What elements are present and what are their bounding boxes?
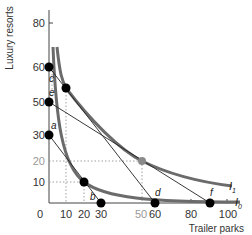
y-tick-label-80: 80 bbox=[33, 17, 45, 29]
tangency-point-i0-ef bbox=[62, 84, 71, 93]
label-a: a bbox=[51, 120, 57, 131]
label-e: e bbox=[49, 87, 55, 98]
point-b bbox=[97, 199, 106, 208]
y-tick-label-10: 10 bbox=[33, 176, 45, 188]
indifference-chart: c e a b d f I1 I0 80 60 50 30 20 10 0 10… bbox=[0, 0, 252, 235]
label-f: f bbox=[210, 187, 214, 198]
x-tick-label-0: 0 bbox=[37, 208, 43, 220]
tangency-point-i1-cd bbox=[138, 157, 146, 165]
point-e bbox=[45, 98, 54, 107]
point-f bbox=[206, 199, 215, 208]
y-tick-label-50: 50 bbox=[33, 96, 45, 108]
x-tick-label-100: 100 bbox=[219, 208, 237, 220]
y-tick-label-30: 30 bbox=[33, 129, 45, 141]
x-tick-label-20: 20 bbox=[78, 208, 90, 220]
tangency-point-i0-ab bbox=[80, 178, 89, 187]
x-tick-label-60: 60 bbox=[149, 208, 161, 220]
label-c: c bbox=[49, 73, 54, 84]
y-axis-title: Luxury resorts bbox=[4, 6, 15, 69]
label-d: d bbox=[155, 187, 161, 198]
y-tick-label-60: 60 bbox=[33, 61, 45, 73]
label-b: b bbox=[90, 191, 96, 202]
point-d bbox=[151, 199, 160, 208]
x-tick-label-30: 30 bbox=[95, 208, 107, 220]
x-tick-label-10: 10 bbox=[60, 208, 72, 220]
y-tick-label-20: 20 bbox=[33, 155, 45, 167]
x-tick-label-80: 80 bbox=[185, 208, 197, 220]
x-axis-title: Trailer parks bbox=[189, 223, 244, 234]
indifference-curve-i1 bbox=[57, 47, 232, 186]
x-tick-label-50: 50 bbox=[135, 208, 147, 220]
point-a bbox=[45, 131, 54, 140]
point-c bbox=[45, 63, 54, 72]
label-i1: I1 bbox=[229, 180, 236, 194]
budget-line-ef bbox=[49, 102, 210, 203]
